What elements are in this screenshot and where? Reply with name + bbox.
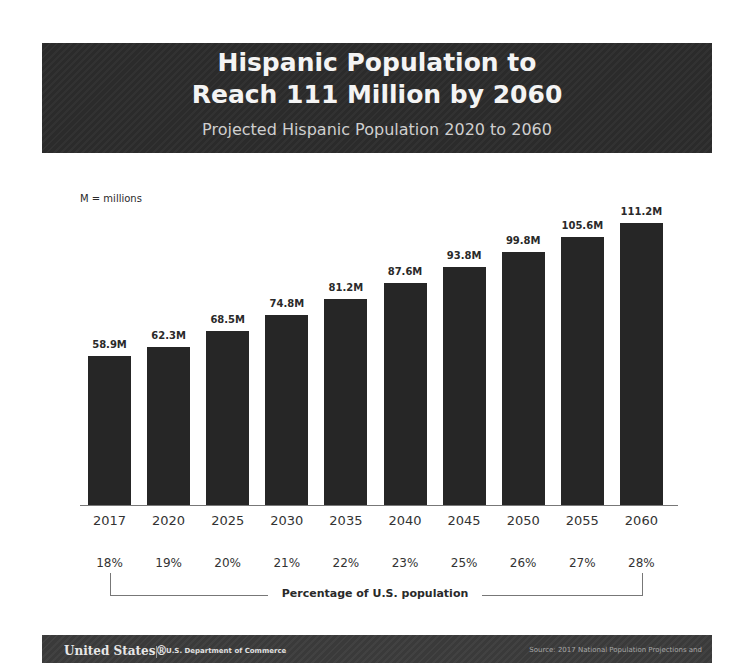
bracket-right-vertical [642, 573, 643, 595]
bar-2040 [384, 283, 427, 505]
bar-2060 [620, 223, 663, 505]
x-tick-label: 2060 [611, 513, 671, 528]
bracket-left-vertical [110, 573, 111, 595]
bar-2045 [443, 267, 486, 505]
percent-label: 28% [611, 556, 671, 570]
census-logo: United States® [64, 644, 167, 658]
footer-banner: United States® U.S. Department of Commer… [42, 635, 712, 663]
bar-value-label: 93.8M [429, 250, 499, 261]
bracket-right-horizontal [482, 595, 643, 596]
bar-value-label: 81.2M [311, 282, 381, 293]
percent-label: 27% [552, 556, 612, 570]
bar-value-label: 111.2M [606, 206, 676, 217]
x-tick-label: 2017 [80, 513, 140, 528]
x-tick-label: 2055 [552, 513, 612, 528]
x-tick-label: 2045 [434, 513, 494, 528]
percent-label: 22% [316, 556, 376, 570]
bar-value-label: 87.6M [370, 266, 440, 277]
percent-label: 25% [434, 556, 494, 570]
bar-2025 [206, 331, 249, 505]
x-tick-label: 2030 [257, 513, 317, 528]
bar-value-label: 105.6M [547, 220, 617, 231]
percent-label: 20% [198, 556, 258, 570]
x-tick-label: 2020 [139, 513, 199, 528]
percent-label: 21% [257, 556, 317, 570]
bar-2020 [147, 347, 190, 505]
source-note: Source: 2017 National Population Project… [529, 646, 702, 654]
bar-value-label: 68.5M [193, 314, 263, 325]
bar-2055 [561, 237, 604, 505]
footer-divider [156, 646, 157, 658]
percent-label: 23% [375, 556, 435, 570]
bar-value-label: 99.8M [488, 235, 558, 246]
bracket-left-horizontal [110, 595, 268, 596]
x-tick-label: 2025 [198, 513, 258, 528]
bar-2030 [265, 315, 308, 505]
bar-2050 [502, 252, 545, 505]
department-name: U.S. Department of Commerce [166, 647, 286, 655]
bar-value-label: 62.3M [134, 330, 204, 341]
x-axis-baseline [80, 505, 678, 506]
x-tick-label: 2040 [375, 513, 435, 528]
percentage-label: Percentage of U.S. population [268, 587, 482, 600]
percent-label: 26% [493, 556, 553, 570]
percent-label: 19% [139, 556, 199, 570]
bar-2035 [324, 299, 367, 505]
percent-label: 18% [80, 556, 140, 570]
bar-2017 [88, 356, 131, 505]
x-tick-label: 2050 [493, 513, 553, 528]
x-tick-label: 2035 [316, 513, 376, 528]
bar-value-label: 74.8M [252, 298, 322, 309]
bar-chart: 58.9M201718%62.3M202019%68.5M202520%74.8… [0, 0, 750, 663]
